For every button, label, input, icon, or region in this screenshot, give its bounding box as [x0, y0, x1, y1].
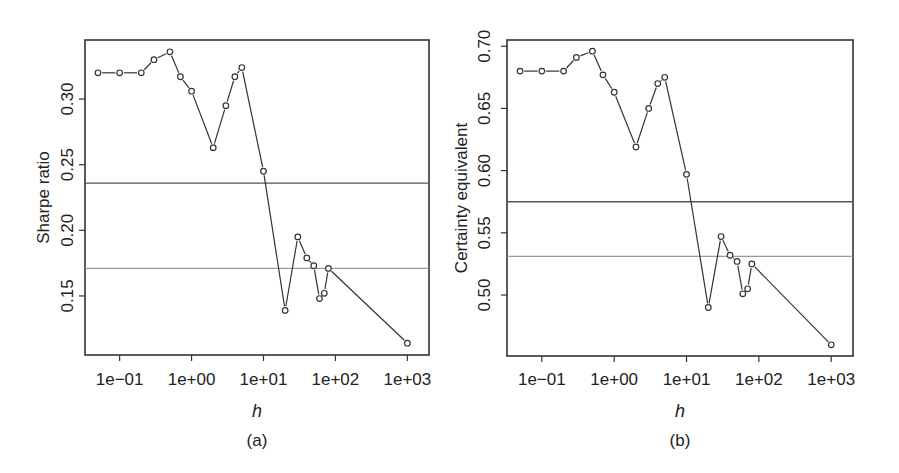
data-point-marker: [749, 261, 755, 267]
x-tick-label: 1e+01: [240, 370, 288, 389]
data-point-marker: [734, 259, 740, 265]
data-point-marker: [684, 172, 690, 178]
data-point-marker: [646, 106, 652, 112]
data-point-marker: [295, 234, 301, 240]
data-point-marker: [611, 89, 617, 95]
series-line-segment: [755, 267, 828, 342]
series-line-segment: [310, 261, 311, 263]
x-tick-label: 1e−01: [518, 370, 566, 389]
x-tick-label: 1e+02: [312, 370, 360, 389]
data-point-marker: [539, 68, 545, 74]
series-line-segment: [243, 72, 263, 167]
series-line-segment: [314, 270, 318, 295]
data-point-marker: [317, 296, 323, 302]
series-line-segment: [331, 271, 404, 340]
series-line-segment: [237, 71, 239, 73]
series-line-segment: [299, 241, 305, 254]
data-point-marker: [95, 70, 101, 76]
data-point-marker: [321, 291, 327, 297]
series-line-segment: [214, 110, 224, 144]
series-line-segment: [723, 240, 728, 251]
series-line-segment: [286, 241, 297, 306]
series-line-segment: [709, 241, 720, 304]
y-tick-label: 0.20: [58, 214, 77, 247]
series-line-segment: [144, 63, 151, 70]
data-point-marker: [282, 308, 288, 314]
x-tick-label: 1e+02: [735, 370, 783, 389]
data-point-marker: [239, 65, 245, 71]
series-line-segment: [605, 78, 612, 88]
y-tick-label: 0.15: [58, 279, 77, 312]
data-point-marker: [210, 145, 216, 151]
series-line-segment: [738, 266, 742, 290]
data-point-marker: [633, 144, 639, 150]
y-axis-title: Certainty equivalent: [452, 123, 471, 274]
x-tick-label: 1e+03: [383, 370, 431, 389]
y-tick-label: 0.55: [475, 216, 494, 249]
series-line-segment: [183, 80, 189, 88]
series-line-segment: [637, 112, 647, 143]
data-point-marker: [561, 68, 567, 74]
data-point-marker: [405, 340, 411, 346]
data-point-marker: [223, 103, 229, 109]
data-point-marker: [590, 48, 596, 54]
data-point-marker: [574, 55, 580, 61]
data-point-marker: [167, 49, 173, 55]
series-line-segment: [193, 95, 212, 144]
data-point-marker: [178, 74, 184, 80]
data-point-marker: [706, 305, 712, 311]
series-line-segment: [566, 60, 573, 68]
series-line-segment: [748, 268, 751, 285]
panel-a-sharpe-ratio-chart: 1e−011e+001e+011e+021e+030.150.200.250.3…: [34, 40, 431, 450]
data-point-marker: [718, 234, 724, 240]
panel-label: (b): [670, 431, 691, 450]
data-point-marker: [655, 81, 661, 87]
data-point-marker: [740, 291, 746, 297]
data-point-marker: [189, 88, 195, 94]
y-tick-label: 0.70: [475, 30, 494, 63]
y-tick-label: 0.50: [475, 278, 494, 311]
data-point-marker: [517, 68, 523, 74]
data-point-marker: [326, 266, 332, 272]
data-point-marker: [727, 252, 733, 258]
series-line-segment: [616, 96, 635, 143]
data-point-marker: [311, 263, 317, 269]
figure: 1e−011e+001e+011e+021e+030.150.200.250.3…: [0, 0, 899, 473]
data-point-marker: [745, 286, 751, 292]
series-line-segment: [580, 53, 588, 56]
y-tick-label: 0.30: [58, 83, 77, 116]
y-tick-label: 0.60: [475, 154, 494, 187]
series-line-segment: [650, 87, 656, 104]
x-axis-title: h: [675, 401, 685, 421]
y-tick-label: 0.65: [475, 92, 494, 125]
series-line-segment: [325, 273, 328, 290]
series-line-segment: [227, 81, 233, 102]
data-point-marker: [232, 74, 238, 80]
series-line-segment: [158, 54, 166, 58]
series-line-segment: [666, 81, 686, 170]
y-axis-title: Sharpe ratio: [34, 151, 53, 244]
data-point-marker: [261, 168, 267, 174]
data-point-marker: [151, 57, 157, 63]
x-tick-label: 1e+00: [168, 370, 216, 389]
series-line-segment: [172, 56, 179, 73]
x-tick-label: 1e+00: [590, 370, 638, 389]
x-axis-title: h: [252, 401, 262, 421]
plot-frame: [85, 40, 429, 355]
plot-frame: [507, 40, 853, 356]
data-point-marker: [117, 70, 123, 76]
panel-label: (a): [247, 431, 268, 450]
series-line-segment: [594, 55, 601, 71]
data-point-marker: [600, 72, 606, 78]
data-point-marker: [304, 255, 310, 261]
data-point-marker: [662, 75, 668, 81]
series-line-segment: [687, 179, 707, 304]
x-tick-label: 1e+01: [663, 370, 711, 389]
x-tick-label: 1e+03: [807, 370, 855, 389]
series-line-segment: [733, 258, 734, 259]
data-point-marker: [828, 342, 834, 348]
data-point-marker: [138, 70, 144, 76]
panel-b-certainty-equivalent-chart: 1e−011e+001e+011e+021e+030.500.550.600.6…: [452, 30, 855, 450]
x-tick-label: 1e−01: [96, 370, 144, 389]
series-line-segment: [264, 175, 284, 306]
